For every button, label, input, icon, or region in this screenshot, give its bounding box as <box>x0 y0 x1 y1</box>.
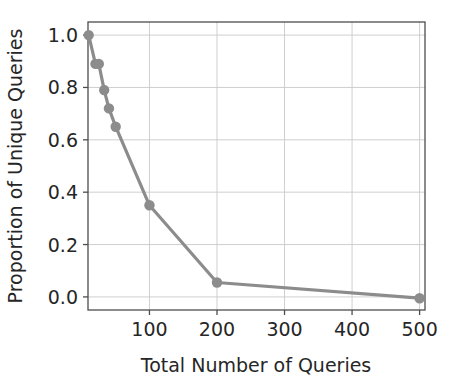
chart-figure: 100200300400500 0.00.20.40.60.81.0 Total… <box>0 0 464 384</box>
x-tick-label: 400 <box>334 318 370 340</box>
x-axis-title: Total Number of Queries <box>140 354 372 376</box>
y-axis-title: Proportion of Unique Queries <box>4 29 26 304</box>
x-tick-label: 300 <box>266 318 302 340</box>
data-point-marker <box>414 293 424 303</box>
data-point-marker <box>99 85 109 95</box>
x-tick-label: 100 <box>131 318 167 340</box>
y-tick-label: 0.8 <box>48 76 78 98</box>
y-tick-label: 0.0 <box>48 286 78 308</box>
data-point-marker <box>212 277 222 287</box>
data-point-marker <box>83 30 93 40</box>
data-point-marker <box>104 103 114 113</box>
y-tick-label: 0.2 <box>48 234 78 256</box>
line-chart: 100200300400500 0.00.20.40.60.81.0 Total… <box>0 0 464 384</box>
x-tick-label: 500 <box>401 318 437 340</box>
y-tick-label: 1.0 <box>48 24 78 46</box>
data-point-marker <box>144 200 154 210</box>
y-tick-label: 0.6 <box>48 129 78 151</box>
x-tick-label: 200 <box>199 318 235 340</box>
data-point-marker <box>94 59 104 69</box>
plot-area-background <box>88 22 425 310</box>
data-point-marker <box>110 122 120 132</box>
y-tick-label: 0.4 <box>48 181 78 203</box>
